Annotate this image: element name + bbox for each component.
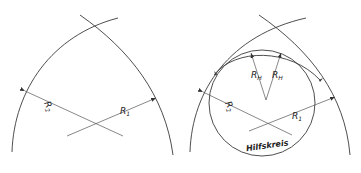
- construction-drawing: R2 R1 RH RH R2 R1 Hilfskreis: [0, 0, 361, 173]
- left-drawing: R2 R1: [12, 15, 173, 155]
- label-auxiliary-circle: Hilfskreis: [245, 138, 289, 153]
- tangent-arrow-right: [319, 78, 323, 82]
- label-rh-right: RH: [272, 70, 283, 81]
- label-r2: R2: [222, 100, 236, 114]
- label-rh-left: RH: [251, 70, 262, 81]
- arc-r1: [80, 15, 173, 155]
- radius-line-r2: [203, 92, 292, 135]
- label-r2: R2: [41, 100, 55, 114]
- radius-line-r2: [25, 91, 123, 136]
- radius-line-r1: [67, 98, 156, 136]
- label-r1: R1: [120, 106, 130, 117]
- label-r1: R1: [292, 111, 302, 122]
- arc-r2: [12, 18, 118, 152]
- right-drawing: RH RH R2 R1 Hilfskreis: [190, 15, 350, 156]
- tangent-arc: [214, 55, 320, 80]
